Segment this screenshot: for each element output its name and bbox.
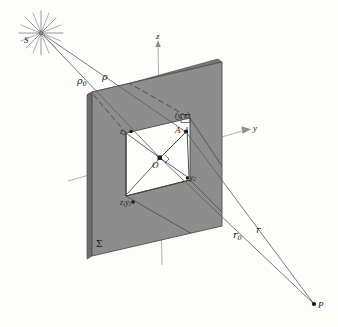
axis-y-arrowhead: [242, 126, 252, 134]
label-axis-y: y: [253, 124, 257, 133]
coords-values: y, z: [178, 111, 188, 120]
screen-sigma: [87, 59, 222, 259]
screen-left-edge-slab: [87, 92, 92, 259]
label-origin-O: O: [152, 161, 159, 170]
axis-z-arrowhead: [155, 40, 161, 47]
label-point-P: P: [318, 301, 324, 310]
label-corner-y2: y2: [190, 174, 196, 183]
figure-canvas: [0, 0, 338, 327]
label-rho-zero: ρ0: [77, 76, 87, 87]
point-corner-z1y1-marker: [131, 200, 135, 204]
source-starburst-icon: [19, 11, 63, 55]
label-r-zero: r0: [233, 230, 242, 241]
label-point-A: A: [175, 126, 181, 135]
rho-zero-subscript: 0: [83, 80, 87, 88]
shadow-cone-edge-mid: [190, 180, 314, 304]
label-corner-z1-y1: z1y1: [120, 199, 131, 208]
label-aperture-coords: (y, z): [175, 112, 190, 120]
label-rho: ρ: [102, 72, 108, 82]
coords-close-paren: ): [187, 111, 190, 120]
label-axis-z: z: [156, 32, 160, 41]
diffraction-figure: S P O A (y, z) Σ z y ρ0 ρ r0 r z1y1 z2 y…: [0, 0, 338, 327]
point-P-marker: [312, 302, 316, 306]
r-zero-subscript: 0: [238, 234, 242, 242]
label-source-S: S: [24, 36, 29, 45]
label-r: r: [256, 225, 261, 235]
point-A-marker: [184, 129, 188, 133]
corner-y1-subscript: 1: [129, 201, 132, 207]
label-corner-z2: z2: [120, 128, 125, 137]
corner-y2-subscript: 2: [193, 176, 196, 182]
corner-z2-subscript: 2: [123, 130, 126, 136]
point-corner-y2-marker: [186, 176, 190, 180]
point-corner-z2-marker: [129, 130, 133, 134]
label-screen-sigma: Σ: [96, 240, 102, 249]
